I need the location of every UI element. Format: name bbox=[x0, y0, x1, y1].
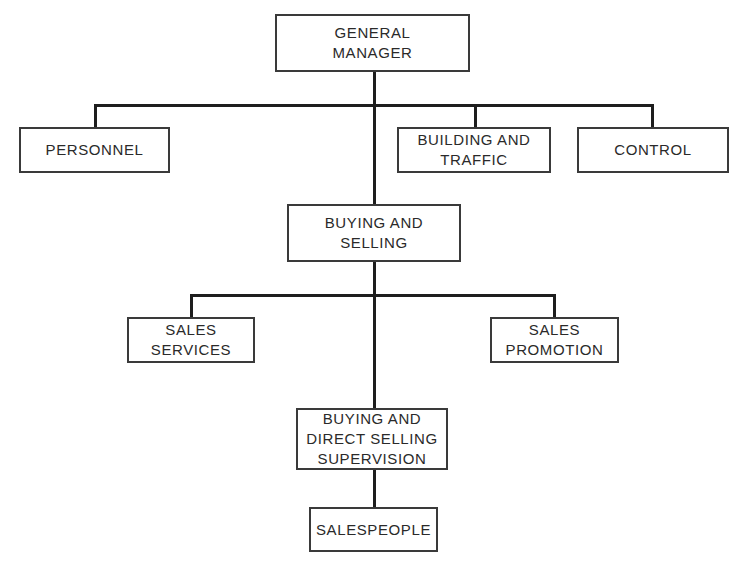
connector-level2-bar bbox=[190, 294, 556, 297]
node-general-manager: GENERAL MANAGER bbox=[275, 14, 470, 72]
connector-control bbox=[651, 104, 654, 128]
connector-salespeople bbox=[373, 468, 376, 508]
connector-personnel bbox=[94, 104, 97, 128]
connector-sales-promotion bbox=[553, 294, 556, 318]
connector-sales-services bbox=[190, 294, 193, 318]
node-control: CONTROL bbox=[577, 127, 729, 173]
node-building-and-traffic: BUILDING AND TRAFFIC bbox=[397, 127, 551, 173]
node-buying-and-selling: BUYING AND SELLING bbox=[287, 204, 461, 262]
connector-building-traffic bbox=[474, 104, 477, 128]
node-buying-direct-selling-supervision: BUYING AND DIRECT SELLING SUPERVISION bbox=[296, 408, 448, 470]
node-sales-promotion: SALES PROMOTION bbox=[490, 317, 619, 363]
node-salespeople: SALESPEOPLE bbox=[309, 507, 438, 552]
connector-level1-bar bbox=[94, 104, 654, 107]
node-sales-services: SALES SERVICES bbox=[127, 317, 255, 363]
node-personnel: PERSONNEL bbox=[19, 127, 170, 173]
